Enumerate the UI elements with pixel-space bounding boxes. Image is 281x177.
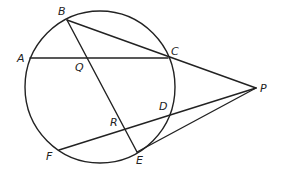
segment-BE — [67, 20, 137, 152]
label-C: C — [171, 45, 179, 58]
label-R: R — [110, 116, 118, 129]
secant-BP — [67, 20, 256, 88]
label-E: E — [136, 154, 143, 167]
label-F: F — [46, 150, 53, 163]
geometry-diagram: A B C D E F P Q R — [0, 0, 281, 177]
label-B: B — [58, 5, 66, 18]
label-Q: Q — [75, 61, 84, 74]
label-P: P — [260, 82, 267, 95]
label-A: A — [16, 52, 25, 65]
label-D: D — [159, 100, 167, 113]
circle — [25, 11, 175, 163]
